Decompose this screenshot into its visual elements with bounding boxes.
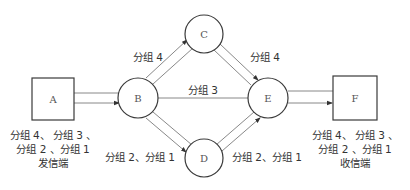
node-d: D	[185, 139, 223, 177]
sender-caption: 发信端	[38, 157, 69, 169]
sender-block: 分组 4、 分组 3 、 分组 2 、分组 1 发信端	[10, 129, 97, 169]
node-b-label: B	[134, 93, 141, 104]
network-diagram: A B C D E F 分组 4 分组 4 分组 3 分组 2、分组 1 分组 …	[0, 0, 410, 190]
node-f-label: F	[352, 93, 359, 104]
edge-label-d-e: 分组 2、分组 1	[232, 151, 302, 163]
node-a: A	[32, 78, 74, 120]
edge-label-b-c: 分组 4	[133, 51, 163, 63]
edge-e-f	[288, 91, 333, 103]
node-e-label: E	[264, 93, 271, 104]
receiver-packets-line1: 分组 4、 分组 3 、	[312, 129, 399, 141]
edge-b-d	[146, 112, 192, 152]
node-b: B	[118, 78, 158, 118]
edge-label-c-e: 分组 4	[250, 51, 280, 63]
sender-packets-line1: 分组 4、 分组 3 、	[10, 129, 97, 141]
receiver-packets-line2: 分组 2 、分组 1	[318, 143, 391, 155]
node-c-label: C	[200, 29, 208, 40]
node-f: F	[333, 76, 377, 120]
edge-label-b-e: 分组 3	[188, 84, 218, 96]
node-e: E	[248, 78, 288, 118]
node-c: C	[185, 15, 223, 53]
node-d-label: D	[200, 153, 208, 164]
node-a-label: A	[48, 94, 57, 105]
edge-label-b-d: 分组 2、分组 1	[105, 151, 175, 163]
sender-packets-line2: 分组 2 、分组 1	[16, 143, 89, 155]
edge-a-b	[74, 93, 119, 103]
edge-d-e	[216, 112, 260, 151]
receiver-block: 分组 4、 分组 3 、 分组 2 、分组 1 收信端	[312, 129, 399, 169]
receiver-caption: 收信端	[340, 157, 371, 169]
